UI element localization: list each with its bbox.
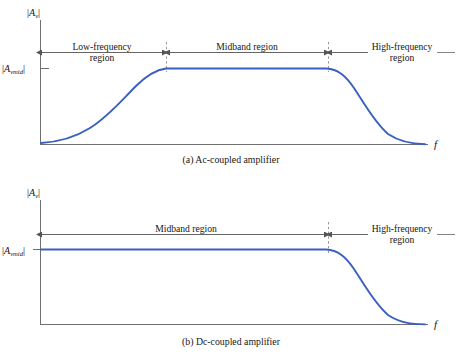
- region-label-low-frequency-line1-a: Low-frequency: [72, 41, 131, 52]
- y-tick-label-avmid-b: |Avmid|: [2, 245, 25, 257]
- region-label-high-frequency-line1-b: High-frequency: [372, 223, 433, 234]
- figure-root: |Av| |Avmid| f Low-frequency region Midb…: [0, 0, 462, 356]
- x-axis-label-f-a: f: [434, 138, 439, 150]
- region-label-high-frequency-line2-b: region: [390, 234, 415, 245]
- x-axis-label-f-b: f: [434, 318, 439, 330]
- region-label-low-frequency-line2-a: region: [90, 52, 115, 63]
- y-tick-label-avmid-a: |Avmid|: [2, 63, 25, 75]
- panel-dc-coupled: |Av| |Avmid| f Midband region High-frequ…: [0, 178, 462, 356]
- y-axis-label-a: |Av|: [27, 7, 40, 19]
- response-curve-dc-coupled: [41, 250, 425, 325]
- response-curve-ac-coupled: [41, 69, 425, 145]
- y-axis-label-b: |Av|: [27, 187, 40, 199]
- region-label-high-frequency-line1-a: High-frequency: [372, 41, 433, 52]
- region-label-high-frequency-line2-a: region: [390, 52, 415, 63]
- panel-ac-coupled: |Av| |Avmid| f Low-frequency region Midb…: [0, 0, 462, 178]
- region-label-midband-a: Midband region: [216, 41, 278, 52]
- region-label-midband-b: Midband region: [155, 223, 217, 234]
